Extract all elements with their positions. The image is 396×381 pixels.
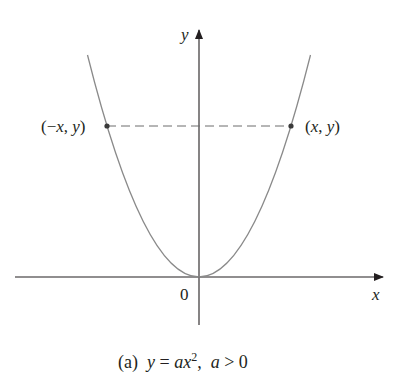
right-point-label: (x, y) [305, 117, 340, 136]
parabola-diagram: y x 0 (−x, y) (x, y) (a) y = ax2, a > 0 [0, 0, 396, 381]
y-axis-label: y [179, 25, 189, 44]
left-point-label: (−x, y) [41, 117, 86, 136]
right-point-marker [288, 123, 293, 128]
left-point-marker [104, 123, 109, 128]
figure-caption: (a) y = ax2, a > 0 [118, 350, 248, 373]
origin-label: 0 [180, 285, 189, 304]
x-axis-label: x [371, 285, 380, 304]
